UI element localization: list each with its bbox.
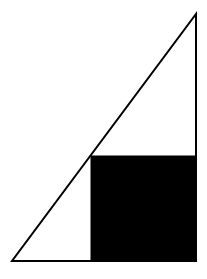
inscribed-filled-square <box>91 156 196 261</box>
diagram-canvas <box>0 0 207 279</box>
triangle-square-diagram <box>0 0 207 279</box>
